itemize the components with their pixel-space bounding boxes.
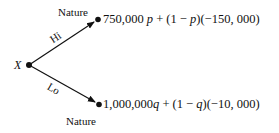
hi-branch-arrow xyxy=(29,22,94,65)
root-node xyxy=(26,62,32,68)
hi-outcome-formula: 750,000 p + (1 − p)(−150, 000) xyxy=(103,13,260,26)
lo-outcome-formula: 1,000,000q + (1 − q)(−10, 000) xyxy=(103,98,260,111)
lo-nature-label: Nature xyxy=(66,116,96,127)
lo-nature-node xyxy=(96,102,102,108)
root-label: X xyxy=(14,59,21,71)
lo-branch-arrow xyxy=(29,65,95,102)
hi-nature-label: Nature xyxy=(58,7,88,18)
hi-nature-node xyxy=(95,17,101,23)
